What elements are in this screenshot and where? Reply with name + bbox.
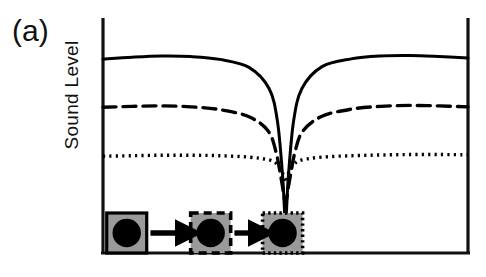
curve-dashed [103, 105, 468, 202]
object-markers [107, 213, 303, 253]
curves [103, 56, 468, 221]
object-1-dot [113, 219, 141, 247]
object-1 [107, 213, 147, 253]
figure-panel-a: (a) Sound Level [0, 0, 486, 277]
curve-dotted [103, 154, 468, 182]
object-3 [263, 213, 303, 253]
object-3-dot [268, 219, 296, 247]
curve-solid [103, 56, 468, 221]
object-2-dot [196, 219, 224, 247]
plot-area [0, 0, 486, 277]
object-2 [191, 213, 231, 253]
